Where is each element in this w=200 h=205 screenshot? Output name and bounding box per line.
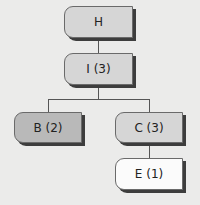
edge-to-c (149, 99, 150, 112)
node-c-label: C (3) (134, 121, 163, 135)
node-i: I (3) (64, 53, 133, 85)
edge-c-e (149, 143, 150, 158)
node-b-label: B (2) (33, 121, 62, 135)
edge-h-i (98, 38, 99, 53)
node-h-label: H (94, 15, 103, 29)
node-e-label: E (1) (135, 167, 163, 181)
node-b: B (2) (14, 112, 82, 143)
edge-branch-horizontal (48, 99, 150, 100)
node-c: C (3) (115, 112, 183, 143)
node-i-label: I (3) (86, 62, 110, 76)
edge-i-down (98, 85, 99, 99)
node-h: H (64, 6, 133, 38)
node-e: E (1) (115, 158, 183, 190)
edge-to-b (48, 99, 49, 112)
